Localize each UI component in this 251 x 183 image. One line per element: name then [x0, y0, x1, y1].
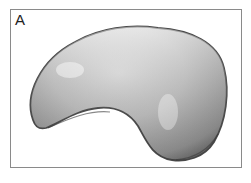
bean-shape-illustration: [0, 0, 251, 183]
